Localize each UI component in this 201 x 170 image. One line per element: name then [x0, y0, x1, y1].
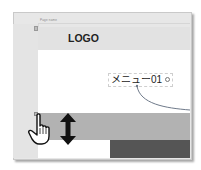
top-divider — [38, 23, 190, 24]
header-section[interactable] — [38, 27, 190, 50]
vertical-resize-arrow-icon — [59, 113, 77, 145]
page-tab-label[interactable]: Page name — [40, 18, 57, 22]
logo-text: LOGO — [68, 32, 99, 44]
hand-pointer-icon — [28, 112, 58, 146]
plus-circle-icon[interactable] — [165, 77, 170, 82]
footer-dark-block — [110, 140, 190, 158]
menu-item-01[interactable]: メニュー01 — [108, 73, 173, 87]
menu-item-label: メニュー01 — [111, 74, 162, 85]
